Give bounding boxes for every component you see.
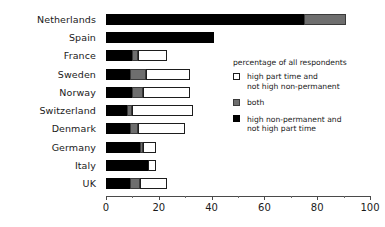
stacked-bar bbox=[106, 142, 156, 153]
bar-segment bbox=[106, 87, 132, 98]
legend-label-line2: not high non-permanent bbox=[247, 82, 383, 91]
bar-segment bbox=[148, 160, 156, 171]
legend-swatch-gray bbox=[233, 99, 240, 106]
category-label: Netherlands bbox=[37, 15, 96, 25]
bar-segment bbox=[132, 105, 193, 116]
x-tick-label: 60 bbox=[244, 202, 284, 213]
bar-segment bbox=[106, 69, 130, 80]
x-tick bbox=[106, 196, 107, 200]
stacked-bar bbox=[106, 105, 193, 116]
bar-row bbox=[106, 178, 370, 189]
x-tick-minor bbox=[185, 196, 186, 198]
stacked-bar bbox=[106, 160, 156, 171]
legend-label: both bbox=[247, 98, 383, 107]
legend-item: high part time andnot high non-permanent bbox=[233, 72, 383, 91]
legend-items: high part time andnot high non-permanent… bbox=[233, 72, 383, 133]
stacked-bar bbox=[106, 14, 346, 25]
legend-swatch-black bbox=[233, 115, 240, 122]
category-label: France bbox=[64, 51, 96, 61]
x-tick-label: 0 bbox=[86, 202, 126, 213]
x-tick-label: 40 bbox=[192, 202, 232, 213]
chart-legend: percentage of all respondents high part … bbox=[233, 58, 383, 140]
category-label: Denmark bbox=[52, 124, 96, 134]
stacked-bar bbox=[106, 123, 185, 134]
x-tick-label: 20 bbox=[139, 202, 179, 213]
x-tick bbox=[212, 196, 213, 200]
x-tick-minor bbox=[344, 196, 345, 198]
stacked-bar bbox=[106, 69, 190, 80]
x-tick bbox=[370, 196, 371, 200]
x-tick-label: 100 bbox=[350, 202, 385, 213]
bar-segment bbox=[106, 178, 130, 189]
bar-segment bbox=[130, 123, 138, 134]
x-tick bbox=[317, 196, 318, 200]
x-tick-minor bbox=[291, 196, 292, 198]
bar-segment bbox=[106, 142, 140, 153]
bar-segment bbox=[138, 50, 167, 61]
bar-segment bbox=[106, 50, 132, 61]
x-tick-minor bbox=[132, 196, 133, 198]
legend-title: percentage of all respondents bbox=[233, 58, 383, 67]
category-label: Switzerland bbox=[39, 106, 96, 116]
bar-segment bbox=[106, 14, 304, 25]
stacked-bar bbox=[106, 178, 167, 189]
bar-segment bbox=[138, 123, 186, 134]
x-tick bbox=[264, 196, 265, 200]
bar-row bbox=[106, 32, 370, 43]
stacked-bar bbox=[106, 87, 190, 98]
x-tick-minor bbox=[238, 196, 239, 198]
category-label: Norway bbox=[59, 88, 96, 98]
bar-segment bbox=[304, 14, 346, 25]
bar-segment bbox=[143, 87, 191, 98]
bar-row bbox=[106, 142, 370, 153]
legend-label: high part time and bbox=[247, 72, 383, 81]
x-tick bbox=[159, 196, 160, 200]
category-label: Germany bbox=[52, 143, 96, 153]
bar-segment bbox=[106, 123, 130, 134]
category-label: Sweden bbox=[58, 70, 96, 80]
bar-segment bbox=[106, 32, 214, 43]
legend-item: high non-permanent andnot high part time bbox=[233, 115, 383, 134]
category-label: Italy bbox=[75, 161, 96, 171]
bar-segment bbox=[130, 69, 146, 80]
category-label: Spain bbox=[69, 33, 96, 43]
bar-row bbox=[106, 160, 370, 171]
bar-segment bbox=[143, 142, 156, 153]
legend-swatch-white bbox=[233, 73, 240, 80]
bar-row bbox=[106, 14, 370, 25]
bar-segment bbox=[140, 178, 166, 189]
bar-chart: NetherlandsSpainFranceSwedenNorwaySwitze… bbox=[0, 0, 385, 227]
bar-segment bbox=[106, 105, 127, 116]
legend-label: high non-permanent and bbox=[247, 115, 383, 124]
category-axis-labels: NetherlandsSpainFranceSwedenNorwaySwitze… bbox=[0, 10, 100, 193]
legend-item: both bbox=[233, 98, 383, 107]
stacked-bar bbox=[106, 32, 214, 43]
stacked-bar bbox=[106, 50, 167, 61]
x-tick-label: 80 bbox=[297, 202, 337, 213]
bar-segment bbox=[130, 178, 141, 189]
bar-segment bbox=[106, 160, 148, 171]
category-label: UK bbox=[83, 179, 96, 189]
legend-label-line2: not high part time bbox=[247, 124, 383, 133]
bar-segment bbox=[132, 87, 143, 98]
bar-segment bbox=[146, 69, 191, 80]
